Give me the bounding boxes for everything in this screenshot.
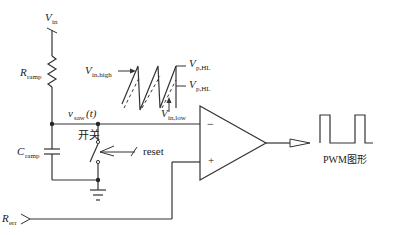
- vin-terminal: V in: [45, 11, 58, 56]
- arrow-up-icon: [167, 97, 172, 103]
- switch-blade-icon: [90, 144, 98, 162]
- vin-high-sub: in,high: [92, 71, 112, 79]
- c-ramp-sub: ramp: [25, 152, 40, 160]
- r-err-sub: err: [9, 219, 17, 227]
- reset-switch: 开关 reset: [78, 124, 164, 182]
- vin-sub: in: [52, 18, 58, 26]
- vsaw-arg: (t): [86, 107, 97, 120]
- resistor-r-ramp: R ramp: [19, 56, 56, 124]
- resistor-zigzag-icon: [48, 56, 56, 87]
- r-ramp-sub: ramp: [27, 73, 42, 81]
- pwm-label: PWM图形: [323, 154, 367, 165]
- vsaw-label: v: [68, 107, 73, 119]
- pwm-circuit-diagram: V in R ramp v saw (t) C ramp 开关: [0, 0, 398, 235]
- r-ramp-label: R: [19, 66, 27, 78]
- switch-label: 开关: [78, 128, 100, 141]
- vp-hl-sub-2: p,HL: [196, 85, 211, 93]
- opamp-minus: −: [207, 117, 214, 131]
- reset-arrowhead-icon: [100, 146, 114, 156]
- input-chevron-icon: [21, 214, 30, 224]
- ground-symbol: [90, 180, 106, 200]
- vp-hl-sub-1: p,HL: [196, 64, 211, 72]
- output-arrow-icon: [290, 139, 310, 147]
- sawtooth-waveform: V in,high V in,low V p,HL V p,HL: [85, 57, 211, 122]
- vin-low-sub: in,low: [168, 114, 187, 122]
- pwm-square-wave-icon: [320, 115, 373, 143]
- reset-label: reset: [143, 145, 164, 157]
- pwm-waveform: PWM图形: [320, 115, 373, 165]
- c-ramp-label: C: [17, 145, 25, 157]
- comparator-opamp: − +: [200, 106, 310, 180]
- vsaw-sub: saw: [74, 114, 86, 122]
- opamp-plus: +: [208, 154, 214, 166]
- r-err-label: R: [1, 212, 9, 224]
